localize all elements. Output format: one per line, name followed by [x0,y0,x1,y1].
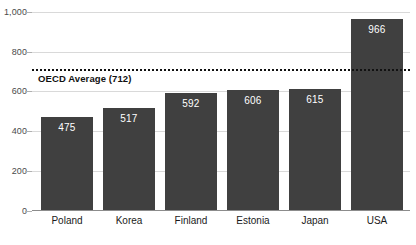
bar-finland[interactable]: 592 [165,93,217,211]
category-label-korea: Korea [103,215,155,226]
bar-value-korea: 517 [103,113,155,124]
oecd-average-line [32,69,410,71]
y-tick-label-1000: 1,000 [0,7,27,17]
y-tick-label-0: 0 [0,206,27,216]
category-label-poland: Poland [41,215,93,226]
x-axis-baseline [32,210,410,211]
bar-value-usa: 966 [351,24,403,35]
plot-area: 475 517 592 606 615 966 [32,12,410,211]
y-tick-mark-600 [25,91,32,92]
category-label-japan: Japan [289,215,341,226]
bar-japan[interactable]: 615 [289,89,341,211]
y-tick-label-800: 800 [0,47,27,57]
y-tick-mark-800 [25,52,32,53]
oecd-average-label: OECD Average (712) [38,73,132,84]
y-tick-mark-1000 [25,12,32,13]
y-tick-mark-0 [25,211,32,212]
y-tick-label-400: 400 [0,126,27,136]
category-label-finland: Finland [165,215,217,226]
bar-chart: 1,000 800 600 400 200 0 475 517 592 [0,0,416,245]
y-tick-mark-400 [25,131,32,132]
bar-korea[interactable]: 517 [103,108,155,211]
y-tick-label-600: 600 [0,86,27,96]
bar-poland[interactable]: 475 [41,117,93,212]
y-tick-mark-200 [25,171,32,172]
bar-value-estonia: 606 [227,95,279,106]
y-tick-label-200: 200 [0,166,27,176]
bar-value-poland: 475 [41,122,93,133]
bar-value-japan: 615 [289,94,341,105]
bars-layer: 475 517 592 606 615 966 [32,12,410,211]
bar-value-finland: 592 [165,98,217,109]
bar-usa[interactable]: 966 [351,19,403,211]
category-label-estonia: Estonia [227,215,279,226]
bar-estonia[interactable]: 606 [227,90,279,211]
category-label-usa: USA [351,215,403,226]
